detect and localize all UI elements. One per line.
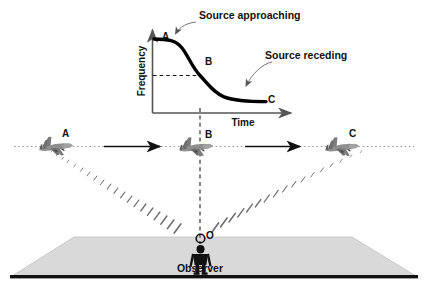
figure-canvas: Source approaching Source receding A B C… — [0, 0, 427, 296]
observer-label: Observer — [177, 262, 223, 274]
plane-c-label: C — [349, 128, 356, 139]
observer-point-label: O — [206, 230, 214, 241]
doppler-effect-figure: Source approaching Source receding A B C… — [0, 0, 427, 296]
wavefront-rays-approaching — [51, 151, 181, 233]
callout-source-approaching: Source approaching — [199, 9, 301, 21]
graph-point-label-c: C — [268, 94, 275, 105]
graph-point-label-b: B — [205, 56, 212, 67]
graph-x-axis-label: Time — [231, 117, 255, 128]
callout-source-receding: Source receding — [265, 49, 347, 61]
plane-a-label: A — [62, 128, 69, 139]
callout-leader-approaching — [176, 22, 197, 34]
graph-point-label-a: A — [162, 31, 169, 42]
graph-y-axis-label: Frequency — [136, 45, 147, 96]
plane-b-label: B — [205, 129, 212, 140]
callout-leader-receding — [246, 62, 272, 86]
frequency-curve — [154, 39, 266, 102]
wavefront-rays-receding — [212, 151, 362, 232]
